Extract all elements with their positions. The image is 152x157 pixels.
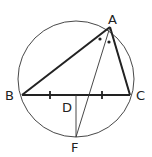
geometry-diagram: A B C D F	[0, 0, 152, 157]
angle-mark-dot	[107, 40, 110, 43]
label-f: F	[71, 140, 78, 155]
label-d: D	[62, 100, 72, 115]
side-ac	[110, 27, 130, 95]
label-a: A	[108, 12, 117, 27]
bisector-af	[76, 27, 110, 137]
angle-mark-dot	[98, 37, 101, 40]
label-b: B	[5, 88, 14, 103]
label-c: C	[136, 88, 145, 103]
